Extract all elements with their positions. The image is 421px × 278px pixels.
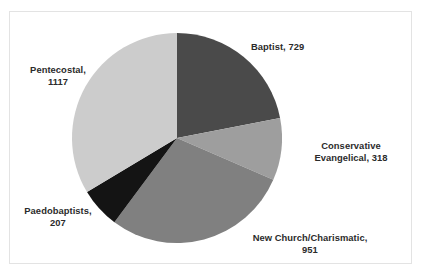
slice-label-paedobaptists-line1: Paedobaptists, — [24, 205, 91, 216]
slice-label-baptist-text: Baptist, 729 — [251, 41, 304, 52]
slice-label-pentecostal-line2: 1117 — [48, 76, 68, 87]
slice-label-new-church-charismatic: New Church/Charismatic, 951 — [234, 232, 386, 257]
slice-label-baptist: Baptist, 729 — [251, 41, 304, 53]
slice-label-paedobaptists: Paedobaptists, 207 — [10, 205, 106, 230]
slice-label-new-church-charismatic-line2: 951 — [302, 244, 318, 255]
slice-label-new-church-charismatic-line1: New Church/Charismatic, — [253, 232, 368, 243]
slice-label-pentecostal-line1: Pentecostal, — [30, 64, 86, 75]
slice-label-pentecostal: Pentecostal, 1117 — [11, 64, 105, 89]
slice-label-conservative-evangelical-line1: Conservative — [321, 140, 380, 151]
slice-label-paedobaptists-line2: 207 — [50, 217, 66, 228]
slice-label-conservative-evangelical-line2: Evangelical, 318 — [314, 152, 387, 163]
pie-chart-figure: Baptist, 729 Conservative Evangelical, 3… — [0, 0, 421, 278]
slice-label-conservative-evangelical: Conservative Evangelical, 318 — [292, 140, 410, 165]
